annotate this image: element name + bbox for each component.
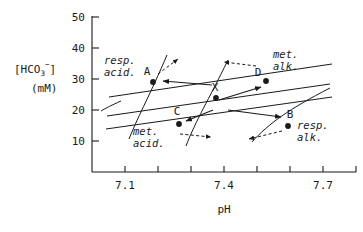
annotation-resp-acid-line2: acid.: [104, 66, 136, 78]
dashed-arrow-resp-acid: [158, 59, 178, 74]
point-label-a: A: [144, 65, 151, 78]
x-axis: [92, 166, 356, 172]
y-axis-units: (mM): [31, 82, 58, 95]
y-tick-label-50: 50: [72, 11, 85, 24]
annotation-resp-acid-line1: resp.: [104, 54, 136, 66]
annotation-met-acid-line1: met.: [132, 125, 158, 137]
y-axis-title: [HCO3−] (mM): [14, 60, 58, 95]
x-axis-title: pH: [217, 203, 230, 216]
pco2-isobar-far-left: [101, 101, 121, 111]
data-point-a[interactable]: [150, 79, 156, 85]
y-axis: [92, 16, 99, 172]
buffer-line-upper: [109, 64, 332, 97]
y-tick-label-10: 10: [72, 135, 85, 148]
annotation-resp-alk-line2: alk.: [297, 131, 322, 143]
y-axis-title-sub: 3: [41, 69, 46, 78]
annotation-met-alk-line1: met.: [272, 48, 298, 60]
annotation-met-alk-line2: alk.: [273, 60, 298, 72]
data-point-x[interactable]: [213, 95, 219, 101]
point-label-d: D: [255, 66, 262, 79]
x-tick-label-7-7: 7.7: [313, 179, 333, 192]
arrow-x-to-b: [228, 110, 281, 117]
y-tick-label-40: 40: [72, 42, 85, 55]
y-tick-label-30: 30: [72, 73, 85, 86]
annotation-resp-alk-line1: resp.: [297, 119, 329, 131]
pco2-isobar-middle: [186, 60, 228, 146]
dashed-arrow-resp-alk: [249, 131, 282, 139]
data-point-c[interactable]: [176, 121, 182, 127]
annotation-resp-acid: resp. acid.: [104, 54, 136, 78]
svg-text:[HCO3−]: [HCO3−]: [14, 60, 56, 78]
annotation-met-acid-line2: acid.: [133, 137, 165, 149]
data-point-d[interactable]: [263, 78, 269, 84]
acid-base-diagram-svg: 50 40 30 20 10 7.1 7.4 7.7 pH [HCO3−] (m…: [0, 0, 363, 232]
y-axis-title-close: ]: [50, 63, 57, 76]
point-label-c: C: [174, 105, 181, 118]
data-point-b[interactable]: [285, 123, 291, 129]
x-tick-label-7-4: 7.4: [214, 179, 234, 192]
annotation-met-alk: met. alk.: [272, 48, 298, 72]
figure-canvas: 50 40 30 20 10 7.1 7.4 7.7 pH [HCO3−] (m…: [0, 0, 363, 232]
arrow-x-to-d: [219, 87, 261, 100]
point-label-b: B: [287, 108, 294, 121]
arrow-x-to-c: [186, 110, 213, 121]
buffer-line-middle: [107, 84, 330, 116]
point-label-x: X: [212, 81, 219, 94]
y-axis-title-main: [HCO: [14, 63, 41, 76]
dashed-arrow-met-acid: [180, 134, 211, 137]
x-tick-label-7-1: 7.1: [115, 179, 135, 192]
y-tick-label-20: 20: [72, 104, 85, 117]
dashed-arrow-met-alk: [224, 62, 256, 66]
annotation-met-acid: met. acid.: [132, 125, 165, 149]
annotation-resp-alk: resp. alk.: [297, 119, 329, 143]
